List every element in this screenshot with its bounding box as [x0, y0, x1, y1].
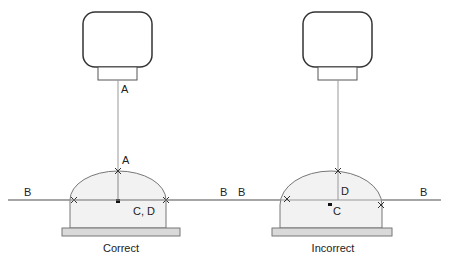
label-b-right: B [420, 186, 427, 198]
label-c-d: C, D [133, 205, 155, 217]
camera-lens-icon [98, 67, 137, 80]
base-plate [62, 228, 180, 236]
label-d: D [341, 185, 349, 197]
label-b-left: B [24, 186, 31, 198]
label-a-top: A [122, 154, 130, 166]
c-dot [328, 203, 332, 206]
label-b-left: B [238, 186, 245, 198]
label-c: C [333, 205, 341, 217]
diagram-canvas: A A B B C, D Correct B B D C Incorrect [0, 0, 449, 259]
label-b-middle: B [220, 186, 227, 198]
camera-lens-icon [318, 67, 357, 80]
caption-correct: Correct [103, 242, 139, 254]
label-a-line: A [121, 83, 129, 95]
camera-body-icon [83, 12, 152, 67]
base-plate [272, 228, 392, 236]
caption-incorrect: Incorrect [312, 242, 355, 254]
camera-body-icon [303, 12, 372, 67]
